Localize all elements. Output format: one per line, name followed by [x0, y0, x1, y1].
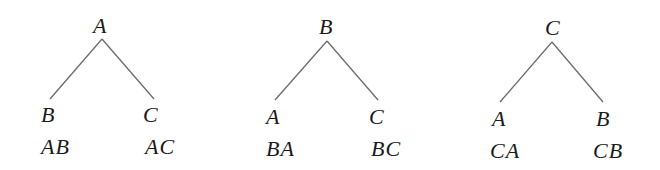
tree3-right-node: B	[596, 108, 610, 130]
tree3-root: C	[545, 17, 561, 39]
edge-tree1-right	[102, 39, 154, 99]
tree3-left-outcome: CA	[490, 140, 520, 162]
edge-tree3-left	[500, 42, 552, 102]
tree1-right-node: C	[143, 104, 159, 126]
edge-tree3-right	[552, 42, 603, 102]
edge-tree2-right	[327, 41, 378, 100]
tree2-root: B	[319, 16, 333, 38]
tree2-right-node: C	[369, 106, 385, 128]
tree1-root: A	[93, 15, 107, 37]
tree2-left-outcome: BA	[266, 138, 295, 160]
tree-diagram-canvas: A B C AB AC B A C BA BC C A B CA CB	[0, 0, 660, 170]
tree1-left-outcome: AB	[41, 136, 70, 158]
edge-tree1-left	[50, 39, 102, 99]
tree3-left-node: A	[492, 108, 506, 130]
tree2-right-outcome: BC	[371, 138, 401, 160]
tree1-left-node: B	[41, 104, 55, 126]
tree1-right-outcome: AC	[145, 136, 175, 158]
tree2-left-node: A	[266, 106, 280, 128]
tree3-right-outcome: CB	[593, 140, 623, 162]
edge-tree2-left	[275, 41, 327, 100]
